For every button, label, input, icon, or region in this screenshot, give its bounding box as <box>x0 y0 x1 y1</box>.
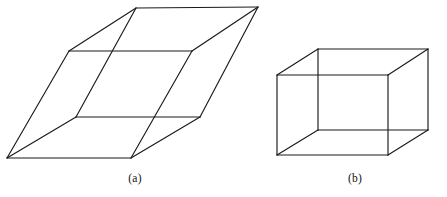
figure-a-edge-top_back_left-to-top_back_right <box>136 7 258 8</box>
figure-a-caption: (a) <box>0 172 270 184</box>
figure-b-drawing <box>277 49 428 155</box>
figure-b-edge-bottom_back_right-to-bottom_front_right <box>388 130 428 155</box>
figure-b-edge-top_back_left-to-top_front_left <box>277 49 318 75</box>
figure-a-edge-top_back_left-to-top_front_left <box>69 8 136 51</box>
figure-b-edge-bottom_back_left-to-bottom_front_left <box>277 130 318 155</box>
figure-a-drawing <box>7 7 258 158</box>
figure-b-caption: (b) <box>280 172 430 184</box>
figure-a-edge-top_front_right-to-bottom_front_right <box>131 51 192 158</box>
figure-a-edge-top_back_right-to-bottom_back_right <box>200 7 258 117</box>
figure-b-edge-top_back_right-to-top_front_right <box>388 49 428 75</box>
figure-a-edge-top_back_right-to-top_front_right <box>192 7 258 51</box>
figure-a-edge-top_front_left-to-bottom_front_left <box>7 51 69 158</box>
figure-a-edge-bottom_back_left-to-bottom_front_left <box>7 117 76 158</box>
figure-a-edge-top_back_left-to-bottom_back_left <box>76 8 136 117</box>
figure-a-edge-bottom_back_right-to-bottom_front_right <box>131 117 200 158</box>
figure-canvas <box>0 0 447 197</box>
